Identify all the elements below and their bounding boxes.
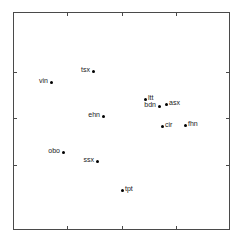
x-axis-tick-bottom-1 [122,226,123,230]
point-label-ltt: ltt [148,94,153,101]
data-point-ssx[interactable] [96,160,99,163]
data-point-tsx[interactable] [92,70,95,73]
y-axis-tick-left-1 [13,118,17,119]
data-point-asx[interactable] [165,103,168,106]
data-point-fhn[interactable] [184,124,187,127]
x-axis-tick-top-0 [67,12,68,16]
point-label-cir: cir [165,121,172,128]
point-label-ssx: ssx [84,156,95,163]
data-point-ehn[interactable] [102,115,105,118]
x-axis-tick-bottom-2 [176,226,177,230]
data-point-obo[interactable] [62,151,65,154]
y-axis-tick-right-0 [226,72,230,73]
y-axis-tick-right-2 [226,165,230,166]
data-point-bdn[interactable] [158,105,161,108]
point-label-fhn: fhn [188,120,198,127]
data-point-vin[interactable] [50,81,53,84]
point-label-asx: asx [169,99,180,106]
y-axis-tick-left-0 [13,72,17,73]
point-label-tpt: tpt [125,185,133,192]
data-point-tpt[interactable] [121,189,124,192]
y-axis-tick-right-1 [226,118,230,119]
scatter-plot-figure: tsxvinlttbdnasxehncirfhnobossxtpt [0,0,246,248]
y-axis-tick-left-2 [13,165,17,166]
x-axis-tick-top-1 [122,12,123,16]
x-axis-tick-top-2 [176,12,177,16]
data-point-cir[interactable] [161,125,164,128]
point-label-bdn: bdn [144,101,156,108]
point-label-vin: vin [39,77,48,84]
point-label-tsx: tsx [81,66,90,73]
point-label-ehn: ehn [88,111,100,118]
x-axis-tick-bottom-0 [67,226,68,230]
point-label-obo: obo [48,147,60,154]
